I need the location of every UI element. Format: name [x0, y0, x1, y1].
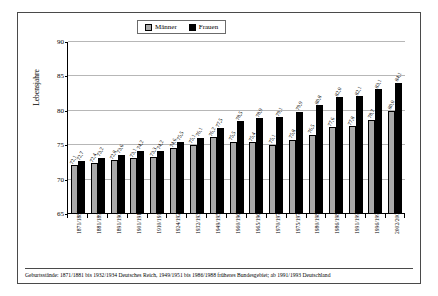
x-axis: 1871/18811881/18901891/19001901/19101910… [67, 214, 405, 270]
bar-value-label: 73,2 [96, 147, 105, 158]
bar-maenner[interactable]: 72,4 [91, 163, 98, 214]
bar-group: 80,084,1 [385, 42, 405, 214]
x-tick-label: 1924/1926 [176, 210, 182, 234]
bar-frauen[interactable]: 79,1 [276, 117, 283, 214]
bar-maenner[interactable]: 77,8 [349, 126, 356, 214]
x-axis-category: 1932/1934 [186, 214, 206, 270]
bar-group: 77,682,0 [326, 42, 346, 214]
y-tick-label: 80 [57, 107, 64, 115]
y-tick-label: 65 [57, 210, 64, 218]
bar-frauen[interactable]: 72,7 [78, 161, 85, 214]
x-axis-category: 1871/1881 [67, 214, 87, 270]
x-tick-mark [266, 214, 267, 218]
legend-swatch-maenner-icon [145, 24, 152, 31]
bar-group: 74,675,5 [167, 42, 187, 214]
bar-group: 75,176,1 [187, 42, 207, 214]
legend-label-maenner: Männer [155, 24, 177, 31]
bar-maenner[interactable]: 76,5 [309, 135, 316, 214]
bar-value-label: 72,7 [77, 150, 86, 161]
bar-frauen[interactable]: 79,9 [296, 112, 303, 215]
x-axis-category: 1891/1900 [107, 214, 127, 270]
x-tick-label: 2002/2004 [395, 210, 401, 234]
bar-maenner[interactable]: 75,1 [190, 145, 197, 214]
bar-value-label: 82,1 [354, 86, 363, 97]
bar-frauen[interactable]: 74,2 [137, 151, 144, 214]
bar-maenner[interactable]: 77,6 [329, 127, 336, 214]
x-tick-label: 1881/1890 [97, 210, 103, 234]
x-tick-mark [166, 214, 167, 218]
bar-maenner[interactable]: 78,7 [368, 120, 375, 214]
legend-entry-frauen: Frauen [189, 24, 218, 31]
x-tick-mark [286, 214, 287, 218]
x-axis-category: 1881/1890 [87, 214, 107, 270]
bar-maenner[interactable]: 80,0 [388, 111, 395, 214]
x-tick-mark [226, 214, 227, 218]
x-tick-label: 1901/1910 [137, 210, 143, 234]
y-axis-title: Lebensjahre [32, 43, 41, 133]
x-axis-category: 1970/1972 [266, 214, 286, 270]
bar-frauen[interactable]: 76,1 [197, 138, 204, 214]
x-tick-label: 1891/1900 [117, 210, 123, 234]
bar-group: 73,174,2 [127, 42, 147, 214]
x-tick-label: 1996/1998 [375, 210, 381, 234]
bar-frauen[interactable]: 84,1 [395, 83, 402, 214]
bar-frauen[interactable]: 75,5 [177, 142, 184, 214]
x-tick-mark [385, 214, 386, 218]
bar-group: 73,374,2 [147, 42, 167, 214]
bar-group: 75,879,9 [286, 42, 306, 214]
bar-group: 78,783,1 [365, 42, 385, 214]
x-tick-label: 1965/1967 [256, 210, 262, 234]
legend-swatch-frauen-icon [189, 24, 196, 31]
bar-frauen[interactable]: 73,6 [118, 155, 125, 214]
bar-frauen[interactable]: 78,9 [256, 118, 263, 214]
bar-group: 72,172,7 [68, 42, 88, 214]
x-axis-category: 1980/1982 [306, 214, 326, 270]
bar-frauen[interactable]: 73,2 [98, 158, 105, 214]
bar-frauen[interactable]: 80,8 [316, 105, 323, 214]
bar-frauen[interactable]: 82,0 [336, 97, 343, 214]
bar-maenner[interactable]: 73,3 [150, 157, 157, 214]
bar-frauen[interactable]: 82,1 [356, 96, 363, 214]
x-axis-category: 1975/1977 [286, 214, 306, 270]
bar-value-label: 82,0 [334, 86, 343, 97]
bar-value-label: 78,5 [235, 110, 244, 121]
bar-maenner[interactable]: 72,1 [71, 165, 78, 214]
x-tick-mark [186, 214, 187, 218]
bar-maenner[interactable]: 76,2 [210, 137, 217, 214]
bar-group: 75,179,1 [266, 42, 286, 214]
x-tick-label: 1975/1977 [296, 210, 302, 234]
bar-maenner[interactable]: 75,1 [269, 145, 276, 214]
bar-group: 72,873,6 [108, 42, 128, 214]
bar-maenner[interactable]: 75,8 [289, 140, 296, 214]
bar-frauen[interactable]: 83,1 [375, 89, 382, 214]
x-axis-category: 1910/1911 [147, 214, 167, 270]
bar-frauen[interactable]: 78,5 [237, 121, 244, 214]
bar-group: 76,277,5 [207, 42, 227, 214]
bar-maenner[interactable]: 73,1 [130, 158, 137, 214]
bar-frauen[interactable]: 77,5 [217, 128, 224, 214]
x-tick-mark [67, 214, 68, 218]
bar-maenner[interactable]: 75,4 [249, 142, 256, 214]
bar-maenner[interactable]: 75,5 [230, 142, 237, 214]
bar-value-label: 79,9 [295, 101, 304, 112]
bar-value-label: 78,9 [255, 108, 264, 119]
x-axis-category: 1924/1926 [166, 214, 186, 270]
x-tick-label: 1949/1951 [216, 210, 222, 234]
y-tick-label: 75 [57, 141, 64, 149]
legend-label-frauen: Frauen [199, 24, 218, 31]
bar-maenner[interactable]: 74,6 [170, 148, 177, 214]
x-tick-mark [345, 214, 346, 218]
bar-maenner[interactable]: 72,8 [111, 160, 118, 214]
x-axis-category: 1960/1962 [226, 214, 246, 270]
x-axis-category: 1949/1951 [206, 214, 226, 270]
x-tick-label: 1970/1972 [276, 210, 282, 234]
x-axis-category: 1996/1998 [365, 214, 385, 270]
bar-frauen[interactable]: 74,2 [157, 151, 164, 214]
bar-value-label: 76,1 [195, 127, 204, 138]
bar-group: 75,478,9 [246, 42, 266, 214]
chart-legend: Männer Frauen [137, 20, 226, 34]
bar-group: 72,473,2 [88, 42, 108, 214]
x-axis-category: 1901/1910 [127, 214, 147, 270]
x-tick-mark [107, 214, 108, 218]
bar-group: 77,882,1 [346, 42, 366, 214]
